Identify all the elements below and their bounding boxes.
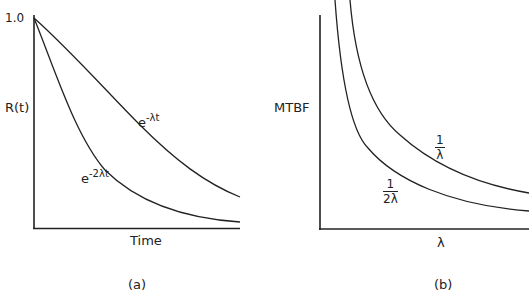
panel-a-curve-e-2lambda-t <box>34 18 240 222</box>
panel-b-x-axis-label: λ <box>437 236 445 249</box>
panel-a-y-axis-label: R(t) <box>5 101 29 114</box>
curve1-numerator: 1 <box>435 134 445 147</box>
curve1-base: e <box>138 115 146 130</box>
curve2-base: e <box>81 171 89 186</box>
panel-b-y-axis-label: MTBF <box>274 101 310 114</box>
panel-a-caption: (a) <box>128 278 146 291</box>
panel-b-curve1-label: 1 λ <box>435 134 445 161</box>
panel-a-y-tick-label: 1.0 <box>5 12 24 24</box>
panel-a-curve2-label: e-2λt <box>81 172 109 185</box>
panel-b-curve-one-over-2lambda <box>335 0 529 211</box>
panel-b-axes <box>319 15 529 230</box>
curve2-denominator: 2λ <box>383 192 398 205</box>
curve2-exponent: -2λt <box>89 168 109 179</box>
panel-a-x-axis-label: Time <box>130 234 162 247</box>
curve1-exponent: -λt <box>146 112 159 123</box>
panel-b-caption: (b) <box>434 278 452 291</box>
curve2-numerator: 1 <box>386 178 396 191</box>
figure-canvas <box>0 0 529 298</box>
panel-a-curve-e-lambda-t <box>34 18 240 197</box>
panel-b-curve2-label: 1 2λ <box>383 178 398 205</box>
panel-b-curve-one-over-lambda <box>350 0 529 193</box>
panel-a-curve1-label: e-λt <box>138 116 159 129</box>
curve1-denominator: λ <box>436 148 443 161</box>
